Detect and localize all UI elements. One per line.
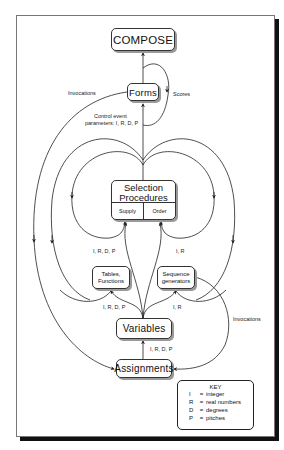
tables-line2: Functions [98,278,124,285]
compose-label: COMPOSE [113,34,173,46]
key-row: P = pitches [178,414,253,422]
key-symbol: R [189,398,197,406]
node-tables-functions: Tables, Functions [92,266,130,289]
key-equals: = [197,390,206,398]
label-tables-irdp: I, R, D, P [103,304,125,310]
selection-ports: Supply Order [112,202,175,219]
key-row: I = integer [178,390,253,398]
node-forms: Forms [127,83,159,101]
sequence-line2: generators [162,278,191,285]
sequence-line1: Sequence [162,271,189,278]
label-control-line2: parameters: I, R, D, P [85,120,138,126]
node-assignments: Assignments [116,359,172,378]
forms-label: Forms [129,87,157,98]
variables-label: Variables [123,323,166,334]
tables-line1: Tables, [101,271,120,278]
label-assign-irdp: I, R, D, P [150,346,172,352]
order-port: Order [143,203,175,219]
node-selection-procedures: Selection Procedures Supply Order [111,180,176,220]
node-sequence-generators: Sequence generators [157,266,195,289]
label-scores: Scores [173,91,190,97]
label-invocations-right: Invocations [233,316,261,322]
key-symbol: I [189,390,197,398]
key-equals: = [197,406,206,414]
assignments-label: Assignments [114,363,173,374]
legend-key: KEY I = integer R = real numbers D = deg… [177,380,254,430]
label-right-ir: I, R [176,248,185,254]
key-equals: = [197,398,206,406]
key-meaning: pitches [206,414,225,422]
label-invocations-left: Invocations [68,90,96,96]
key-symbol: P [189,414,197,422]
key-row: D = degrees [178,406,253,414]
label-sequence-ir: I, R [173,304,182,310]
node-compose: COMPOSE [111,28,175,51]
key-meaning: real numbers [206,398,241,406]
edge-invocations-right [174,277,229,369]
label-control-line1: Control event [94,113,127,119]
key-equals: = [197,414,206,422]
key-symbol: D [189,406,197,414]
label-left-irdp: I, R, D, P [93,248,115,254]
key-meaning: degrees [206,406,228,414]
key-meaning: integer [206,390,224,398]
key-row: R = real numbers [178,398,253,406]
node-variables: Variables [116,318,172,339]
supply-port: Supply [112,203,143,219]
edge-invocations-left [34,92,127,369]
edge-variables-sequence [143,291,176,318]
